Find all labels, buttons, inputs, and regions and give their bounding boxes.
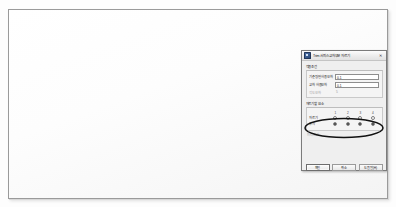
radio-cell[interactable] <box>367 116 380 120</box>
preview-note: 미리보기 <box>306 132 383 137</box>
col-header-2: 2 <box>342 111 355 115</box>
radio-cell[interactable] <box>367 122 380 126</box>
radio-cell[interactable] <box>354 122 367 126</box>
3d-surface-viewport[interactable] <box>9 10 309 198</box>
radio-cell[interactable] <box>329 116 342 120</box>
field-row-base-tolerance[interactable]: 기준평면 허용오차 0.1 <box>309 74 379 80</box>
matrix-row-keep: 유지 <box>309 121 379 127</box>
field-label-disabled: 각도오차 <box>309 90 335 95</box>
intersect-tolerance-input[interactable]: 0.1 <box>335 82 379 88</box>
field-label: 기준평면 허용오차 <box>309 74 335 79</box>
field-row-intersect-tolerance[interactable]: 교차 허용오차 0.1 <box>309 82 379 88</box>
close-icon[interactable]: ✕ <box>377 52 384 59</box>
field-row-angle-tolerance: 각도오차 5 <box>309 90 379 95</box>
control-point <box>280 74 286 80</box>
matrix-column-headers: 1 2 3 4 <box>309 111 379 115</box>
trim-radio-matrix: 1 2 3 4 자르기 <box>309 111 379 128</box>
dialog-body: 적용조건 기준평면 허용오차 0.1 교차 허용오차 0.1 <box>302 61 386 174</box>
group1-box: 기준평면 허용오차 0.1 교차 허용오차 0.1 각도오차 5 <box>306 70 383 98</box>
row-label-trim: 자르기 <box>309 117 329 120</box>
radio-cell[interactable] <box>342 122 355 126</box>
group-apply-conditions: 적용조건 기준평면 허용오차 0.1 교차 허용오차 0.1 <box>306 64 383 98</box>
radio-trim-4[interactable] <box>371 116 375 120</box>
document-panel: Trim 서피스교차부분 자르기 ✕ 적용조건 기준평면 허용오차 0.1 <box>8 9 388 199</box>
dialog-button-row: 확인 취소 도움말(H) <box>306 164 383 172</box>
radio-cell[interactable] <box>354 116 367 120</box>
radio-cell[interactable] <box>329 122 342 126</box>
radio-trim-3[interactable] <box>358 116 362 120</box>
radio-trim-1[interactable] <box>333 116 337 120</box>
ok-button[interactable]: 확인 <box>306 164 330 172</box>
control-point <box>254 134 260 140</box>
col-header-1: 1 <box>329 111 342 115</box>
group-trim-elements: 자르기할 요소 1 2 3 4 <box>306 101 383 137</box>
row-label-keep: 유지 <box>309 123 329 126</box>
trim-surface-dialog[interactable]: Trim 서피스교차부분 자르기 ✕ 적용조건 기준평면 허용오차 0.1 <box>301 50 387 171</box>
col-header-4: 4 <box>367 111 380 115</box>
screenshot-root: Trim 서피스교차부분 자르기 ✕ 적용조건 기준평면 허용오차 0.1 <box>0 0 396 207</box>
angle-tolerance-value: 5 <box>335 90 379 94</box>
control-point <box>94 54 100 60</box>
surface-wireframe <box>9 10 309 198</box>
cancel-button[interactable]: 취소 <box>332 164 356 172</box>
base-plane-tolerance-input[interactable]: 0.1 <box>335 74 379 80</box>
group1-label: 적용조건 <box>306 64 383 69</box>
radio-trim-2[interactable] <box>346 116 350 120</box>
help-button[interactable]: 도움말(H) <box>359 164 383 172</box>
col-header-3: 3 <box>354 111 367 115</box>
radio-keep-2[interactable] <box>346 122 350 126</box>
radio-keep-1[interactable] <box>333 122 337 126</box>
dialog-titlebar[interactable]: Trim 서피스교차부분 자르기 ✕ <box>302 51 386 61</box>
field-label: 교차 허용오차 <box>309 82 335 87</box>
panel-inner: Trim 서피스교차부분 자르기 ✕ 적용조건 기준평면 허용오차 0.1 <box>9 10 387 198</box>
app-icon <box>304 52 311 59</box>
radio-keep-4[interactable] <box>371 122 375 126</box>
group2-box: 1 2 3 4 자르기 <box>306 107 383 131</box>
group2-label: 자르기할 요소 <box>306 101 383 106</box>
control-point <box>110 126 116 132</box>
radio-cell[interactable] <box>342 116 355 120</box>
dialog-title: Trim 서피스교차부분 자르기 <box>313 53 375 58</box>
radio-keep-3[interactable] <box>358 122 362 126</box>
